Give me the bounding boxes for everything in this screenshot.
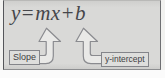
equation-operator-plus: + [61, 1, 75, 25]
equation-var-y: y [11, 1, 21, 25]
slope-label-box: Slope [9, 50, 40, 65]
equation-var-b: b [75, 1, 86, 25]
equation-var-x: x [51, 1, 61, 25]
equation-operator-equals: = [21, 1, 35, 25]
slope-intercept-diagram: y=mx+b Slope y-intercept [0, 0, 165, 78]
equation-text: y=mx+b [11, 1, 86, 26]
equation-var-m: m [35, 1, 51, 25]
footer-strip [0, 70, 165, 78]
y-intercept-label-box: y-intercept [101, 52, 149, 67]
